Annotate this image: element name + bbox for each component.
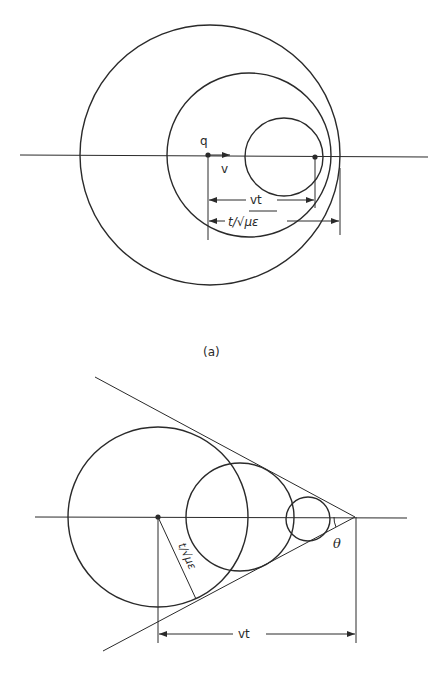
figure-a: q v vt t/√με xyxy=(20,25,428,285)
axis-line xyxy=(35,517,407,518)
mach-cone-lower-line xyxy=(103,517,355,651)
charge-label: q xyxy=(200,134,208,148)
vt-label: vt xyxy=(250,193,262,207)
angle-arc xyxy=(334,517,336,527)
small-wavefront-circle xyxy=(245,118,323,196)
figure-b: vt θ t/√με xyxy=(35,377,407,651)
diagram-canvas: q v vt t/√με (a) vt θ t/√με xyxy=(0,0,443,687)
vt-label: vt xyxy=(238,627,250,641)
mach-cone-upper-line xyxy=(95,377,355,517)
figure-a-caption: (a) xyxy=(203,345,220,359)
small-wavefront-circle xyxy=(286,497,330,541)
middle-wavefront-circle xyxy=(167,73,331,237)
velocity-label: v xyxy=(221,162,228,176)
radius-label: t/√με xyxy=(175,541,199,572)
angle-label: θ xyxy=(333,536,341,551)
radius-label: t/√με xyxy=(228,215,259,229)
